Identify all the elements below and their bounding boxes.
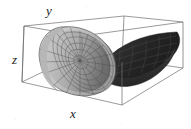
- surface-near-bowl: [38, 26, 116, 97]
- axis-label-y: y: [44, 3, 52, 18]
- figure-canvas: y z x: [0, 0, 191, 129]
- axis-label-z: z: [11, 52, 17, 67]
- surface-far-wing: [106, 32, 180, 87]
- axis-label-x: x: [69, 106, 76, 121]
- surface-plot: y z x: [0, 0, 191, 129]
